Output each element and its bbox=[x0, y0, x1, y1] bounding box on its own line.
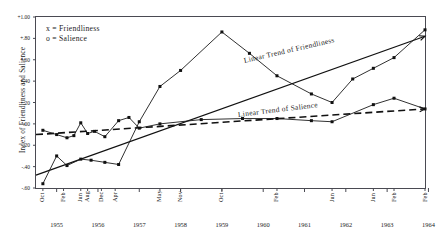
x-month-label: Feb bbox=[59, 192, 66, 202]
plot-frame bbox=[36, 17, 426, 189]
y-tick-label: -.20 bbox=[8, 142, 30, 148]
legend-item-salience: o = Salience bbox=[46, 34, 87, 43]
y-tick-label: +.20 bbox=[8, 100, 30, 106]
x-year-label: 1963 bbox=[372, 221, 402, 228]
x-month-label: Feb bbox=[390, 192, 397, 202]
x-year-label: 1958 bbox=[166, 221, 196, 228]
x-month-label: Apr bbox=[111, 192, 118, 202]
y-tick-label: .00 bbox=[8, 121, 30, 127]
x-month-label: Nov bbox=[176, 191, 183, 202]
x-month-label: Feb bbox=[272, 192, 279, 202]
y-tick-label: +.60 bbox=[8, 57, 30, 63]
x-month-label: Oct bbox=[38, 193, 45, 202]
x-year-label: 1964 bbox=[413, 221, 438, 228]
x-year-label: 1960 bbox=[248, 221, 278, 228]
x-month-label: Jun bbox=[369, 193, 376, 202]
y-tick-label: +.40 bbox=[8, 78, 30, 84]
y-tick-label: -.40 bbox=[8, 164, 30, 170]
x-year-label: 1957 bbox=[124, 221, 154, 228]
x-year-label: 1959 bbox=[207, 221, 237, 228]
y-tick-label: +.80 bbox=[8, 35, 30, 41]
chart-container: Index of Friendliness and Salience x = F… bbox=[0, 0, 438, 236]
x-month-label: Jun bbox=[328, 193, 335, 202]
x-month-label: Aug bbox=[83, 191, 90, 202]
y-tick-label: -.60 bbox=[8, 185, 30, 191]
x-month-label: Oct bbox=[217, 193, 224, 202]
x-month-label: May bbox=[155, 190, 162, 202]
y-tick-label: +1.00 bbox=[8, 14, 30, 20]
x-year-label: 1955 bbox=[42, 221, 72, 228]
legend-item-friendliness: x = Friendliness bbox=[46, 24, 100, 33]
x-year-label: 1962 bbox=[331, 221, 361, 228]
x-year-label: 1961 bbox=[290, 221, 320, 228]
x-year-label: 1956 bbox=[83, 221, 113, 228]
trend-lines bbox=[36, 36, 425, 175]
data-series bbox=[41, 28, 426, 185]
x-month-label: Dec bbox=[97, 192, 104, 202]
x-month-label: Feb bbox=[421, 192, 428, 202]
